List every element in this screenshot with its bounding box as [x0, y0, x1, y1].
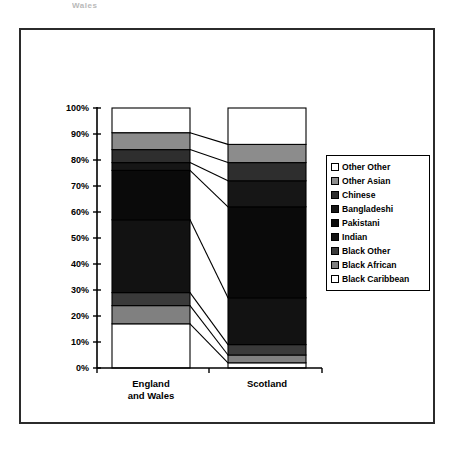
- legend-item: Other Other: [331, 160, 425, 174]
- legend-item: Other Asian: [331, 174, 425, 188]
- y-axis-tick-label: 0%: [55, 363, 89, 373]
- bar-segment: [228, 144, 306, 162]
- bar-segment: [112, 170, 190, 219]
- legend-label: Pakistani: [342, 218, 380, 228]
- category-label-line: Scotland: [212, 378, 322, 390]
- legend-label: Black Other: [342, 246, 390, 256]
- bar-segment: [112, 108, 190, 133]
- bar-segment: [112, 324, 190, 368]
- category-label: Scotland: [212, 378, 322, 390]
- bar-segment: [228, 345, 306, 355]
- bar-segment: [228, 163, 306, 181]
- legend-label: Chinese: [342, 190, 375, 200]
- bar-segment: [112, 306, 190, 324]
- category-label-line: and Wales: [96, 390, 206, 402]
- y-axis-tick-label: 20%: [55, 311, 89, 321]
- y-axis-tick-label: 100%: [55, 103, 89, 113]
- legend-swatch-icon: [331, 205, 339, 213]
- connector-line: [190, 133, 228, 145]
- legend-label: Black Caribbean: [342, 274, 409, 284]
- bar-segment: [228, 355, 306, 363]
- legend-swatch-icon: [331, 163, 339, 171]
- bar-segment: [228, 298, 306, 345]
- legend-label: Bangladeshi: [342, 204, 393, 214]
- y-axis-tick-label: 90%: [55, 129, 89, 139]
- legend-swatch-icon: [331, 275, 339, 283]
- legend-item: Chinese: [331, 188, 425, 202]
- bar-segment: [112, 150, 190, 163]
- connector-line: [190, 150, 228, 163]
- bar-segment: [112, 133, 190, 150]
- legend-label: Other Other: [342, 162, 390, 172]
- legend-swatch-icon: [331, 219, 339, 227]
- legend-label: Black African: [342, 260, 397, 270]
- legend-item: Bangladeshi: [331, 202, 425, 216]
- bar-segment: [228, 181, 306, 207]
- connector-line: [190, 293, 228, 345]
- y-axis-tick-label: 80%: [55, 155, 89, 165]
- legend-item: Indian: [331, 230, 425, 244]
- legend-swatch-icon: [331, 247, 339, 255]
- legend-label: Other Asian: [342, 176, 390, 186]
- legend-swatch-icon: [331, 261, 339, 269]
- legend-item: Black Other: [331, 244, 425, 258]
- legend-label: Indian: [342, 232, 367, 242]
- bar-segment: [112, 163, 190, 171]
- y-axis-tick-label: 10%: [55, 337, 89, 347]
- legend-swatch-icon: [331, 233, 339, 241]
- connector-line: [190, 163, 228, 181]
- legend-item: Black African: [331, 258, 425, 272]
- category-label: Englandand Wales: [96, 378, 206, 402]
- y-axis-tick-label: 30%: [55, 285, 89, 295]
- legend-item: Pakistani: [331, 216, 425, 230]
- connector-line: [190, 170, 228, 206]
- bar-segment: [112, 293, 190, 306]
- legend-swatch-icon: [331, 177, 339, 185]
- y-axis-tick-label: 50%: [55, 233, 89, 243]
- bar-segment: [228, 207, 306, 298]
- y-axis-tick-label: 40%: [55, 259, 89, 269]
- connector-line: [190, 220, 228, 298]
- bar-segment: [112, 220, 190, 293]
- chart-legend: Other OtherOther AsianChineseBangladeshi…: [326, 155, 430, 291]
- y-axis-tick-label: 70%: [55, 181, 89, 191]
- y-axis-tick-label: 60%: [55, 207, 89, 217]
- legend-item: Black Caribbean: [331, 272, 425, 286]
- category-label-line: England: [96, 378, 206, 390]
- legend-swatch-icon: [331, 191, 339, 199]
- bar-segment: [228, 108, 306, 144]
